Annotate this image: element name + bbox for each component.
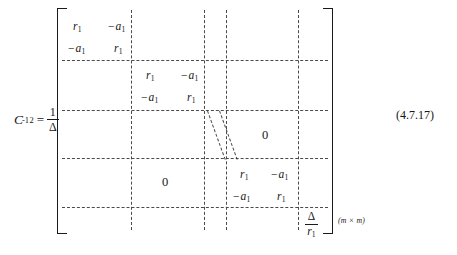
cell-block3-r11: r1 [240, 169, 248, 182]
equation-number: (4.7.17) [396, 108, 434, 123]
zero-upper-right: 0 [262, 129, 268, 142]
equation-figure: C-12 = 1 Δ r1 −a1 −a1 [0, 0, 457, 255]
zero-lower-left: 0 [162, 176, 168, 189]
matrix-horizontal-divider-1 [62, 60, 328, 61]
cell-block3-r12: −a1 [271, 169, 288, 182]
matrix-vertical-divider-4 [298, 10, 299, 230]
matrix-vertical-divider-3 [226, 10, 227, 230]
last-cell-numerator: Δ [308, 211, 315, 224]
matrix-symbol-superscript: -1 [22, 115, 29, 125]
last-cell-delta-over-r1: Δ r1 [305, 211, 318, 238]
matrix-horizontal-divider-2 [62, 110, 328, 111]
cell-block1-r22: r1 [114, 43, 122, 56]
cell-block2-r12: −a1 [181, 70, 198, 83]
matrix-left-bracket [57, 8, 67, 234]
last-cell-denominator: r1 [307, 225, 315, 239]
cell-block1-r21: −a1 [68, 43, 85, 56]
matrix: r1 −a1 −a1 r1 r1 −a1 −a1 r1 r1 −a1 [57, 8, 333, 232]
equation-left-hand-side: C-12 = 1 Δ [14, 106, 59, 133]
cell-block2-r11: r1 [146, 70, 154, 83]
cell-block3-r21: −a1 [233, 191, 250, 204]
cell-block2-r21: −a1 [141, 92, 158, 105]
equals-sign: = [37, 112, 44, 128]
matrix-vertical-divider-1 [131, 10, 132, 230]
cell-block2-r22: r1 [187, 92, 195, 105]
cell-block1-r11: r1 [73, 21, 81, 34]
matrix-symbol-subscript: 2 [29, 115, 33, 125]
matrix-vertical-divider-2 [204, 10, 205, 230]
cell-block3-r22: r1 [277, 191, 285, 204]
matrix-right-bracket [323, 8, 333, 234]
matrix-symbol: C [14, 112, 23, 128]
matrix-horizontal-divider-4 [62, 207, 328, 208]
matrix-horizontal-divider-3 [62, 158, 328, 159]
matrix-dimension-subscript: (m × m) [338, 216, 365, 225]
cell-block1-r12: −a1 [108, 21, 125, 34]
